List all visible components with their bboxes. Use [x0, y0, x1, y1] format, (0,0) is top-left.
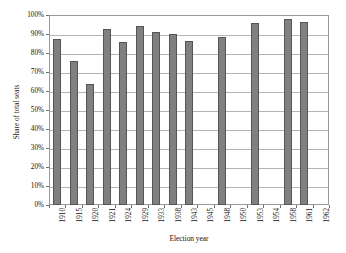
bar[interactable] [86, 84, 94, 205]
x-tick-label: 1954 [274, 208, 281, 222]
bar-slot [148, 15, 164, 205]
y-tick-mark [46, 148, 49, 149]
chart-title [0, 0, 346, 1]
x-tick-label: 1938 [176, 208, 183, 222]
bar[interactable] [103, 29, 111, 205]
x-tick-label: 1962 [324, 208, 331, 222]
y-tick-mark [46, 167, 49, 168]
y-tick-label: 40% [0, 126, 47, 133]
bar[interactable] [169, 34, 177, 205]
bar-slot [98, 15, 114, 205]
bar-slot [296, 15, 312, 205]
bar[interactable] [136, 26, 144, 205]
x-tick-label: 1953 [258, 208, 265, 222]
x-tick-label: 1924 [126, 208, 133, 222]
bar[interactable] [152, 32, 160, 205]
x-tick-label: 1910 [60, 208, 67, 222]
y-tick-label: 10% [0, 183, 47, 190]
bar[interactable] [70, 61, 78, 205]
x-axis-title: Election year [49, 234, 329, 243]
y-tick-label: 20% [0, 164, 47, 171]
bar[interactable] [284, 19, 292, 205]
y-tick-mark [46, 91, 49, 92]
y-tick-label: 50% [0, 107, 47, 114]
y-tick-mark [46, 186, 49, 187]
y-tick-mark [46, 129, 49, 130]
x-tick-label: 1948 [225, 208, 232, 222]
bar-slot [131, 15, 147, 205]
x-tick-label: 1943 [192, 208, 199, 222]
bar[interactable] [185, 41, 193, 205]
bar[interactable] [218, 37, 226, 205]
y-tick-mark [46, 15, 49, 16]
bar-slot [181, 15, 197, 205]
x-tick-label: 1929 [143, 208, 150, 222]
bar[interactable] [300, 22, 308, 205]
y-tick-label: 90% [0, 31, 47, 38]
bar-slot [115, 15, 131, 205]
bars-layer [49, 15, 329, 205]
bar-slot [49, 15, 65, 205]
x-tick-label: 1958 [291, 208, 298, 222]
y-tick-mark [46, 34, 49, 35]
bar-slot [247, 15, 263, 205]
y-tick-label: 60% [0, 88, 47, 95]
x-tick-label: 1921 [110, 208, 117, 222]
bar-slot [214, 15, 230, 205]
x-tick-label: 1945 [208, 208, 215, 222]
bar-slot [65, 15, 81, 205]
y-tick-mark [46, 72, 49, 73]
y-tick-label: 30% [0, 145, 47, 152]
y-tick-mark [46, 205, 49, 206]
x-tick-label: 1920 [93, 208, 100, 222]
bar-chart: Share of total seats 1910191519201921192… [0, 0, 346, 253]
bar[interactable] [251, 23, 259, 205]
x-tick-labels: 1910191519201921192419291933193819431945… [49, 208, 329, 234]
bar[interactable] [119, 42, 127, 205]
bar[interactable] [53, 39, 61, 205]
bar-slot [280, 15, 296, 205]
bar-slot [164, 15, 180, 205]
x-tick-label: 1950 [241, 208, 248, 222]
y-tick-mark [46, 53, 49, 54]
y-tick-label: 0% [0, 202, 47, 209]
y-tick-label: 80% [0, 50, 47, 57]
y-tick-label: 70% [0, 69, 47, 76]
x-tick-label: 1933 [159, 208, 166, 222]
x-tick-label: 1915 [77, 208, 84, 222]
y-tick-label: 100% [0, 12, 47, 19]
bar-slot [82, 15, 98, 205]
x-tick-label: 1961 [307, 208, 314, 222]
y-tick-mark [46, 110, 49, 111]
